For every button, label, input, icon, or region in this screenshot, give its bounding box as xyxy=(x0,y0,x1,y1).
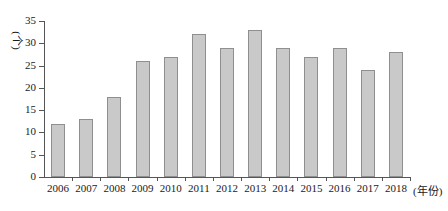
y-axis-tick: 35 xyxy=(39,21,44,22)
x-axis-label: 2017 xyxy=(357,182,379,194)
x-axis-label: 2011 xyxy=(188,182,210,194)
x-axis-tick xyxy=(410,177,411,181)
x-axis-label: 2006 xyxy=(47,182,69,194)
x-axis-label: 2009 xyxy=(132,182,154,194)
y-axis-tick: 30 xyxy=(39,43,44,44)
x-axis-label: 2013 xyxy=(244,182,266,194)
bar xyxy=(333,48,347,177)
y-axis-unit-text: (个) xyxy=(10,31,21,49)
y-axis-tick-label: 0 xyxy=(31,170,37,182)
x-axis-label: 2008 xyxy=(103,182,125,194)
bar-chart: (个) 05101520253035 200620072008200920102… xyxy=(0,0,448,211)
x-axis-tick xyxy=(100,177,101,181)
y-axis-tick-label: 10 xyxy=(25,125,36,137)
y-axis-tick: 15 xyxy=(39,110,44,111)
y-axis-tick-label: 15 xyxy=(25,103,36,115)
y-axis-tick-label: 30 xyxy=(25,36,36,48)
y-axis-line xyxy=(44,21,45,178)
x-axis-unit-label: (年份) xyxy=(413,182,442,198)
x-axis-label: 2012 xyxy=(216,182,238,194)
y-axis-tick-label: 20 xyxy=(25,81,36,93)
bar xyxy=(136,61,150,177)
x-axis-label: 2014 xyxy=(272,182,294,194)
x-axis-tick xyxy=(354,177,355,181)
x-axis-label: 2018 xyxy=(385,182,407,194)
y-axis-tick-label: 35 xyxy=(25,14,36,26)
x-axis-tick xyxy=(241,177,242,181)
bar xyxy=(361,70,375,177)
plot-area: 05101520253035 2006200720082009201020112… xyxy=(44,21,410,177)
bar xyxy=(389,52,403,177)
y-axis-unit-label: (个) xyxy=(6,18,26,62)
y-axis-tick-label: 25 xyxy=(25,59,36,71)
x-axis-line xyxy=(44,177,410,178)
x-axis-tick xyxy=(297,177,298,181)
bar xyxy=(79,119,93,177)
x-axis-tick xyxy=(128,177,129,181)
x-axis-tick xyxy=(382,177,383,181)
y-axis-tick: 20 xyxy=(39,88,44,89)
x-axis-tick xyxy=(326,177,327,181)
x-axis-label: 2016 xyxy=(329,182,351,194)
y-axis-tick-label: 5 xyxy=(31,148,37,160)
x-axis-tick xyxy=(213,177,214,181)
bar xyxy=(107,97,121,177)
bar xyxy=(51,124,65,177)
y-axis-tick: 10 xyxy=(39,132,44,133)
bar xyxy=(276,48,290,177)
y-axis-tick: 5 xyxy=(39,155,44,156)
x-axis-label: 2010 xyxy=(160,182,182,194)
x-axis-tick xyxy=(269,177,270,181)
x-axis-label: 2007 xyxy=(75,182,97,194)
bar xyxy=(304,57,318,177)
y-axis-tick: 25 xyxy=(39,66,44,67)
x-axis-tick xyxy=(72,177,73,181)
x-axis-label: 2015 xyxy=(300,182,322,194)
y-axis-tick: 0 xyxy=(39,177,44,178)
bar xyxy=(192,34,206,177)
bar xyxy=(164,57,178,177)
x-axis-tick xyxy=(157,177,158,181)
bar xyxy=(220,48,234,177)
x-axis-tick xyxy=(185,177,186,181)
bar xyxy=(248,30,262,177)
